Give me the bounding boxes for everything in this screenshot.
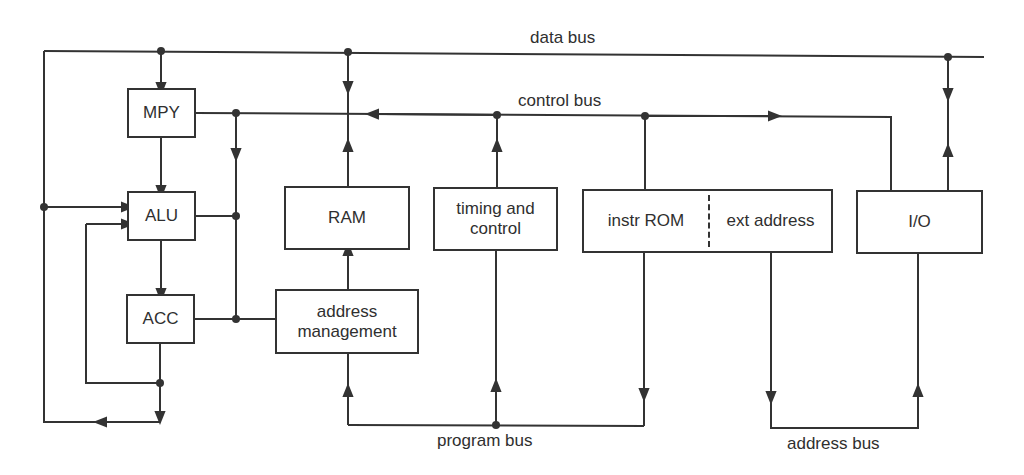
- ext-address-section: ext address: [710, 191, 831, 251]
- timing-label-line2: control: [470, 219, 521, 239]
- rom-block: instr ROM ext address: [582, 189, 833, 253]
- control-bus-arrow-left: [372, 114, 497, 115]
- program-bus-label: program bus: [437, 431, 532, 451]
- io-label: I/O: [908, 212, 931, 232]
- mpy-block: MPY: [127, 88, 196, 138]
- junction-dot: [641, 112, 649, 120]
- address-management-block: address management: [275, 289, 419, 354]
- ram-block: RAM: [284, 186, 410, 250]
- junction-dot: [232, 315, 240, 323]
- junction-dot: [156, 379, 164, 387]
- timing-label-line1: timing and: [456, 199, 534, 219]
- mpy-label: MPY: [143, 103, 180, 123]
- addr-mgmt-label-line2: management: [297, 322, 396, 342]
- junction-dot: [492, 421, 500, 429]
- address-bus-label: address bus: [787, 434, 880, 454]
- io-block: I/O: [856, 190, 983, 254]
- instr-rom-label: instr ROM: [608, 211, 685, 231]
- control-bus-label: control bus: [518, 91, 601, 111]
- data-bus-line: [44, 51, 984, 57]
- addr-mgmt-label-line1: address: [317, 302, 377, 322]
- address-bus-line: [771, 395, 918, 428]
- alu-block: ALU: [127, 191, 196, 241]
- timing-control-block: timing and control: [433, 187, 558, 251]
- junction-dot: [944, 53, 952, 61]
- instr-rom-section: instr ROM: [584, 191, 708, 251]
- junction-dot: [344, 48, 352, 56]
- junction-dot: [232, 212, 240, 220]
- junction-dot: [493, 111, 501, 119]
- acc-block: ACC: [126, 294, 195, 344]
- junction-dot: [232, 109, 240, 117]
- alu-label: ALU: [145, 206, 178, 226]
- acc-label: ACC: [143, 309, 179, 329]
- junction-dot: [157, 47, 165, 55]
- control-bus-line: [195, 113, 891, 191]
- data-bus-label: data bus: [530, 28, 595, 48]
- junction-dot: [40, 203, 48, 211]
- ext-address-label: ext address: [727, 211, 815, 231]
- ram-label: RAM: [328, 208, 366, 228]
